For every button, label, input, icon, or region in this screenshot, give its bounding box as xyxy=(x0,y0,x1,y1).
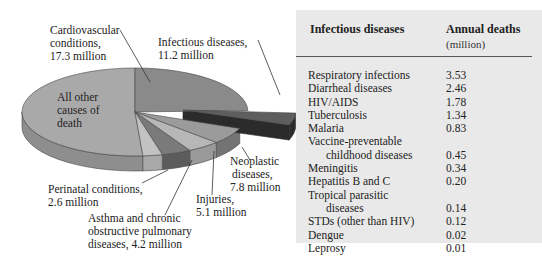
table-header-unit: (million) xyxy=(446,38,485,50)
row-name: Diarrheal diseases xyxy=(308,82,392,95)
row-value: 0.83 xyxy=(446,122,466,135)
table-row: Tropical parasitic xyxy=(308,189,538,202)
row-value: 0.45 xyxy=(446,149,466,162)
row-name: Malaria xyxy=(308,122,344,135)
table-row: diseases0.14 xyxy=(308,202,538,215)
row-value: 0.01 xyxy=(446,242,466,255)
table-row: Diarrheal diseases2.46 xyxy=(308,82,538,95)
row-value: 0.14 xyxy=(446,202,466,215)
table-row: Respiratory infections3.53 xyxy=(308,69,538,82)
row-name: Vaccine-preventable xyxy=(308,135,402,148)
table-row: Vaccine-preventable xyxy=(308,135,538,148)
header-divider xyxy=(296,56,532,57)
label-infectious: Infectious diseases, 11.2 million xyxy=(158,36,247,62)
label-injuries: Injuries, 5.1 million xyxy=(196,193,246,219)
row-value: 0.20 xyxy=(446,175,466,188)
row-name: STDs (other than HIV) xyxy=(308,215,414,228)
slice-cardiovascular xyxy=(135,68,248,112)
row-name: diseases xyxy=(326,202,364,215)
row-name: Respiratory infections xyxy=(308,69,410,82)
table-row: Hepatitis B and C0.20 xyxy=(308,175,538,188)
row-value: 0.02 xyxy=(446,229,466,242)
label-asthma-copd: Asthma and chronic obstructive pulmonary… xyxy=(88,212,192,251)
row-name: Leprosy xyxy=(308,242,346,255)
table-header-value: Annual deaths xyxy=(446,22,520,37)
row-name: Meningitis xyxy=(308,162,358,175)
row-value: 1.34 xyxy=(446,109,466,122)
label-cardiovascular: Cardiovascular conditions, 17.3 million xyxy=(50,24,120,63)
row-name: Tropical parasitic xyxy=(308,189,388,202)
table-header-name: Infectious diseases xyxy=(310,22,404,37)
row-name: childhood diseases xyxy=(326,149,413,162)
label-all-other: All other causes of death xyxy=(57,91,99,130)
row-value: 0.12 xyxy=(446,215,466,228)
table-row: childhood diseases0.45 xyxy=(308,149,538,162)
table-row: Malaria0.83 xyxy=(308,122,538,135)
slice-perinatal-side xyxy=(143,155,162,171)
table-row: Tuberculosis1.34 xyxy=(308,109,538,122)
label-perinatal: Perinatal conditions, 2.6 million xyxy=(48,183,143,209)
table-row: Meningitis0.34 xyxy=(308,162,538,175)
table-row: STDs (other than HIV)0.12 xyxy=(308,215,538,228)
row-name: HIV/AIDS xyxy=(308,96,358,109)
row-name: Hepatitis B and C xyxy=(308,175,390,188)
row-name: Dengue xyxy=(308,229,344,242)
infectious-diseases-table: Infectious diseases Annual deaths (milli… xyxy=(296,10,542,243)
row-value: 1.78 xyxy=(446,96,466,109)
row-name: Tuberculosis xyxy=(308,109,367,122)
table-row: HIV/AIDS1.78 xyxy=(308,96,538,109)
label-neoplastic: Neoplastic diseases, 7.8 million xyxy=(230,155,280,194)
row-value: 3.53 xyxy=(446,69,466,82)
table-body: Respiratory infections3.53Diarrheal dise… xyxy=(308,69,538,255)
row-value: 2.46 xyxy=(446,82,466,95)
row-value: 0.34 xyxy=(446,162,466,175)
table-row: Leprosy0.01 xyxy=(308,242,538,255)
table-row: Dengue0.02 xyxy=(308,229,538,242)
